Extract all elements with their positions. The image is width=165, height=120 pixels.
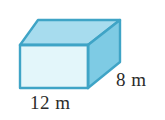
prism-figure: 12 m 8 m — [0, 0, 165, 120]
dimension-label-length: 12 m — [30, 93, 71, 112]
front-face — [20, 45, 88, 88]
rectangular-prism-drawing — [0, 0, 165, 120]
dimension-label-depth: 8 m — [116, 70, 147, 89]
